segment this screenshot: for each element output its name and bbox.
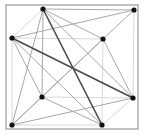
edge-E-H bbox=[42, 97, 102, 125]
graph-diagram bbox=[0, 0, 146, 136]
edge-G-F bbox=[12, 98, 133, 125]
node-A bbox=[40, 6, 45, 11]
edge-E-G bbox=[12, 97, 42, 125]
edge-H-F bbox=[102, 98, 133, 125]
edge-B-D bbox=[103, 10, 134, 39]
edge-group bbox=[12, 9, 134, 125]
edge-C-F bbox=[12, 38, 133, 98]
node-B bbox=[131, 7, 136, 12]
edge-A-C bbox=[12, 9, 43, 38]
node-G bbox=[9, 122, 14, 127]
node-H bbox=[99, 122, 104, 127]
edge-A-G bbox=[12, 9, 43, 125]
edge-A-H bbox=[43, 9, 102, 125]
edge-A-B bbox=[43, 9, 134, 10]
node-E bbox=[39, 94, 44, 99]
edge-C-E bbox=[12, 38, 42, 97]
edge-D-F bbox=[103, 39, 133, 98]
node-D bbox=[100, 36, 105, 41]
edge-C-B bbox=[12, 10, 134, 38]
node-C bbox=[9, 35, 14, 40]
edge-B-F bbox=[133, 10, 134, 98]
node-F bbox=[130, 95, 135, 100]
